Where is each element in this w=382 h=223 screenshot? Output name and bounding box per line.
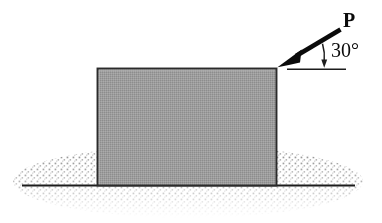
angle-arc-arrowhead — [321, 59, 327, 67]
angle-label-30deg: 30° — [331, 40, 359, 60]
mechanics-diagram — [0, 0, 382, 223]
figure-canvas: P 30° — [0, 0, 382, 223]
block-body — [98, 69, 277, 186]
angle-arc-30 — [321, 44, 327, 68]
angle-arc-curve — [323, 44, 325, 62]
block-rect — [98, 69, 277, 186]
force-label-P: P — [343, 10, 355, 30]
force-arrow-head — [278, 50, 302, 68]
